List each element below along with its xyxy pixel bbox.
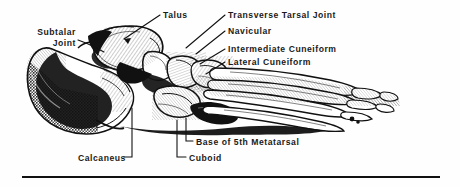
label-lateral-cuneiform: Lateral Cuneiform — [228, 57, 311, 68]
horizontal-rule — [22, 176, 440, 178]
label-calcaneus: Calcaneus — [78, 153, 126, 164]
leader-cuboid — [177, 120, 186, 157]
phalanx-bones — [341, 86, 402, 124]
label-cuboid: Cuboid — [189, 153, 222, 164]
label-subtalar-joint-line1: Subtalar — [37, 27, 76, 37]
leader-transverse-tarsal-joint — [186, 15, 225, 48]
label-navicular: Navicular — [228, 26, 272, 37]
label-intermediate-cuneiform: Intermediate Cuneiform — [228, 44, 337, 55]
foot-anatomy-figure: Subtalar Joint Talus Transverse Tarsal J… — [0, 0, 460, 187]
label-subtalar-joint-line2: Joint — [53, 38, 76, 48]
leader-navicular — [196, 31, 225, 54]
leader-base-5th-metatarsal — [186, 118, 193, 141]
label-transverse-tarsal-joint: Transverse Tarsal Joint — [228, 10, 336, 21]
label-talus: Talus — [163, 10, 188, 21]
label-subtalar-joint: Subtalar Joint — [14, 27, 76, 48]
label-base-of-5th-metatarsal: Base of 5th Metatarsal — [196, 137, 299, 148]
